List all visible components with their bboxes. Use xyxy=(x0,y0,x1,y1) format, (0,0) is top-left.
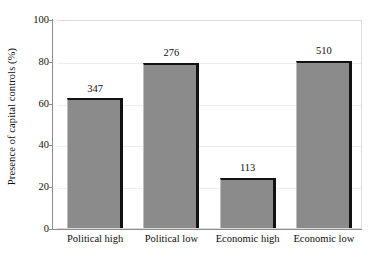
y-axis-tick-label: 0 xyxy=(23,224,49,235)
bar[interactable] xyxy=(143,63,199,228)
y-axis-tick-mark xyxy=(48,20,52,21)
bar-group: 276 xyxy=(143,19,199,228)
x-axis-tick-label: Economic high xyxy=(210,232,286,246)
x-axis-tick-label: Political high xyxy=(57,232,133,246)
y-axis-tick-label: 40 xyxy=(23,140,49,151)
y-axis-tick-labels: 020406080100 xyxy=(17,0,49,265)
bar[interactable] xyxy=(67,98,123,228)
plot-area: 347276113510 xyxy=(57,20,362,229)
bar-group: 510 xyxy=(296,19,352,228)
y-axis-tick-label: 60 xyxy=(23,98,49,109)
bar[interactable] xyxy=(220,178,276,228)
bar-value-label: 347 xyxy=(67,84,123,95)
x-axis-tick-label: Political low xyxy=(133,232,209,246)
bars-layer: 347276113510 xyxy=(57,21,361,228)
y-axis-tick-label: 80 xyxy=(23,57,49,68)
bar-value-label: 113 xyxy=(220,163,276,174)
x-axis-tick-label: Economic low xyxy=(286,232,362,246)
bar-group: 347 xyxy=(67,19,123,228)
y-axis-tick-label: 100 xyxy=(23,15,49,26)
bar-chart-figure: Presence of capital controls (%) 0204060… xyxy=(0,0,372,265)
bar-value-label: 510 xyxy=(296,46,352,57)
x-axis-tick-labels: Political highPolitical lowEconomic high… xyxy=(57,232,362,252)
bar-value-label: 276 xyxy=(143,48,199,59)
y-axis-tick-label: 20 xyxy=(23,182,49,193)
bar[interactable] xyxy=(296,61,352,228)
y-axis-tick-mark xyxy=(48,187,52,188)
bar-group: 113 xyxy=(220,19,276,228)
y-axis-title-text: Presence of capital controls (%) xyxy=(7,47,18,184)
y-axis-tick-mark xyxy=(48,145,52,146)
y-axis-line xyxy=(52,19,53,230)
x-axis-line xyxy=(52,229,362,230)
y-axis-tick-mark xyxy=(48,62,52,63)
y-axis-tick-mark xyxy=(48,104,52,105)
